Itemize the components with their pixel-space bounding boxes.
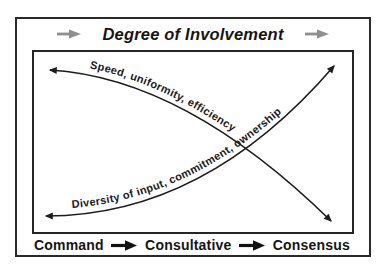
- curves-canvas: Speed, uniformity, efficiency Diversity …: [0, 0, 380, 266]
- axis-label-consultative: Consultative: [145, 237, 231, 253]
- x-axis-labels: Command Consultative Consensus: [34, 235, 350, 255]
- diversity-curve-label: Diversity of input, commitment, ownershi…: [71, 105, 283, 210]
- diversity-curve-label-text: Diversity of input, commitment, ownershi…: [71, 105, 283, 210]
- axis-right-arrow-icon: [110, 239, 138, 252]
- speed-curve-label-text: Speed, uniformity, efficiency: [89, 58, 239, 134]
- axis-right-arrow-icon: [238, 239, 266, 252]
- axis-label-command: Command: [34, 237, 104, 253]
- axis-label-consensus: Consensus: [273, 237, 350, 253]
- diagram-page: Degree of Involvement Speed, uniformity,…: [0, 0, 380, 266]
- speed-curve-label: Speed, uniformity, efficiency: [89, 58, 239, 134]
- diversity-curve: [46, 66, 334, 216]
